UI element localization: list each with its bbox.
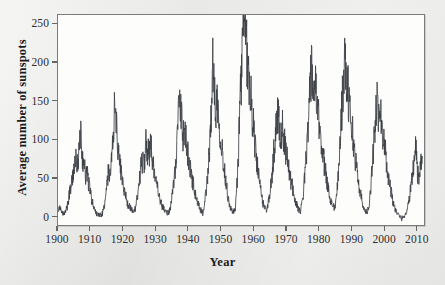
x-tick-mark — [285, 226, 286, 231]
y-tick-mark — [52, 139, 57, 140]
x-tick-mark — [253, 226, 254, 231]
y-tick-mark — [52, 177, 57, 178]
x-tick-mark — [220, 226, 221, 231]
x-tick-label: 2000 — [372, 233, 395, 245]
y-axis-label: Average number of sunspots — [15, 12, 30, 224]
y-tick-mark — [52, 100, 57, 101]
x-tick-mark — [122, 226, 123, 231]
y-tick-label: 50 — [37, 172, 49, 184]
x-tick-mark — [89, 226, 90, 231]
x-tick-label: 1950 — [209, 233, 232, 245]
x-tick-label: 1980 — [307, 233, 330, 245]
x-tick-mark — [416, 226, 417, 231]
y-tick-label: 200 — [31, 56, 49, 68]
x-tick-mark — [384, 226, 385, 231]
y-tick-label: 150 — [31, 95, 49, 107]
x-tick-mark — [187, 226, 188, 231]
y-tick-mark — [52, 23, 57, 24]
x-tick-mark — [318, 226, 319, 231]
x-tick-label: 1990 — [340, 233, 363, 245]
y-tick-label: 0 — [43, 211, 49, 223]
x-tick-2010: 2010 — [397, 226, 437, 245]
x-tick-label: 1930 — [143, 233, 166, 245]
x-tick-mark — [351, 226, 352, 231]
sunspot-figure: 050100150200250 190019101920193019401950… — [0, 0, 445, 285]
x-tick-label: 1900 — [45, 233, 68, 245]
y-tick-mark — [52, 216, 57, 217]
x-tick-label: 1940 — [176, 233, 199, 245]
plot-area — [57, 14, 425, 226]
x-tick-label: 2010 — [405, 233, 428, 245]
sunspot-series-line — [58, 15, 424, 225]
x-tick-label: 1960 — [242, 233, 265, 245]
x-tick-label: 1920 — [111, 233, 134, 245]
x-tick-mark — [155, 226, 156, 231]
y-tick-label: 100 — [31, 133, 49, 145]
x-tick-label: 1970 — [274, 233, 297, 245]
x-tick-mark — [56, 226, 57, 231]
x-tick-label: 1910 — [78, 233, 101, 245]
x-axis-label: Year — [0, 255, 445, 270]
y-tick-mark — [52, 61, 57, 62]
y-tick-label: 250 — [31, 17, 49, 29]
